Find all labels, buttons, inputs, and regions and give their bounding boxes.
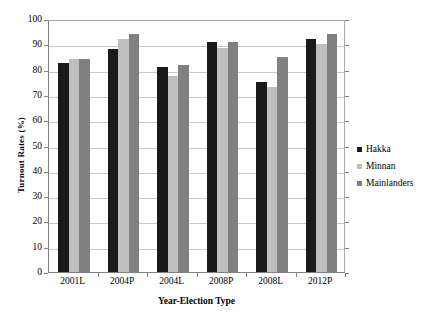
legend-item[interactable]: Mainlanders bbox=[357, 175, 414, 192]
y-axis-tick-label: 100 bbox=[2, 15, 42, 25]
x-axis-tick-label: 2012P bbox=[296, 277, 346, 287]
bar bbox=[316, 44, 327, 272]
y-axis-tick-mark-right bbox=[345, 121, 349, 122]
bar bbox=[168, 76, 179, 272]
bar bbox=[178, 65, 189, 272]
bar bbox=[327, 34, 338, 272]
y-axis-tick-mark-right bbox=[345, 45, 349, 46]
bar bbox=[207, 42, 218, 272]
y-axis-tick-label: 90 bbox=[2, 41, 42, 51]
x-axis-tick-mark bbox=[345, 273, 346, 277]
plot-area bbox=[48, 20, 345, 273]
gridline bbox=[49, 249, 344, 250]
y-axis-tick-mark-right bbox=[345, 96, 349, 97]
bar bbox=[267, 87, 278, 272]
gridline bbox=[49, 72, 344, 73]
y-axis-tick-mark bbox=[44, 273, 48, 274]
bar bbox=[58, 63, 69, 272]
x-axis-tick-label: 2004L bbox=[147, 277, 197, 287]
legend-label: Hakka bbox=[366, 145, 391, 155]
legend-swatch-icon bbox=[357, 147, 362, 152]
y-axis-tick-mark-right bbox=[345, 222, 349, 223]
bar bbox=[277, 57, 288, 272]
gridline bbox=[49, 46, 344, 47]
legend-swatch-icon bbox=[357, 164, 362, 169]
bar bbox=[157, 67, 168, 272]
y-axis-tick-mark-right bbox=[345, 172, 349, 173]
y-axis-tick-label: 10 bbox=[2, 243, 42, 253]
bar bbox=[118, 39, 129, 272]
gridline bbox=[49, 97, 344, 98]
y-axis-tick-label: 20 bbox=[2, 218, 42, 228]
y-axis-tick-label: 70 bbox=[2, 91, 42, 101]
y-axis-tick-mark-right bbox=[345, 197, 349, 198]
bar-group bbox=[256, 21, 288, 272]
gridline bbox=[49, 198, 344, 199]
x-axis-tick-label: 2001L bbox=[48, 277, 98, 287]
x-axis-tick-label: 2008P bbox=[197, 277, 247, 287]
bar bbox=[256, 82, 267, 272]
bar bbox=[79, 59, 90, 272]
bar-group bbox=[58, 21, 90, 272]
y-axis-tick-label: 50 bbox=[2, 142, 42, 152]
y-axis-tick-mark-right bbox=[345, 248, 349, 249]
y-axis-tick-label: 40 bbox=[2, 167, 42, 177]
legend-swatch-icon bbox=[357, 181, 362, 186]
x-axis-tick-label: 2004P bbox=[98, 277, 148, 287]
bar bbox=[129, 34, 140, 272]
y-axis-tick-mark-right bbox=[345, 71, 349, 72]
gridline bbox=[49, 148, 344, 149]
legend-label: Mainlanders bbox=[366, 179, 414, 189]
gridline bbox=[49, 173, 344, 174]
bar bbox=[306, 39, 317, 272]
y-axis-tick-label: 80 bbox=[2, 66, 42, 76]
bar-group bbox=[306, 21, 338, 272]
x-axis-title: Year-Election Type bbox=[48, 296, 345, 306]
legend-label: Minnan bbox=[366, 162, 396, 172]
x-axis-tick-label: 2008L bbox=[246, 277, 296, 287]
legend-item[interactable]: Minnan bbox=[357, 158, 414, 175]
y-axis-tick-label: 0 bbox=[2, 268, 42, 278]
y-axis-tick-label: 60 bbox=[2, 116, 42, 126]
y-axis-tick-mark-right bbox=[345, 147, 349, 148]
bar bbox=[228, 42, 239, 272]
bar-group bbox=[108, 21, 140, 272]
bar bbox=[108, 49, 119, 272]
bar bbox=[69, 59, 80, 272]
bar-group bbox=[157, 21, 189, 272]
gridline bbox=[49, 122, 344, 123]
legend: HakkaMinnanMainlanders bbox=[357, 141, 414, 192]
bar-chart: Turnout Rates (%) 0102030405060708090100… bbox=[0, 0, 432, 326]
gridline bbox=[49, 223, 344, 224]
bar-group bbox=[207, 21, 239, 272]
bar bbox=[217, 48, 228, 272]
y-axis-tick-label: 30 bbox=[2, 192, 42, 202]
y-axis-tick-mark-right bbox=[345, 20, 349, 21]
legend-item[interactable]: Hakka bbox=[357, 141, 414, 158]
